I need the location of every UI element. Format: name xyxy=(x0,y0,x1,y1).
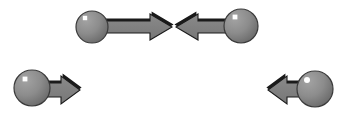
sphere-body xyxy=(76,11,108,43)
sphere-highlight xyxy=(23,77,28,82)
sphere xyxy=(297,71,333,107)
diagram-canvas xyxy=(0,0,348,122)
sphere xyxy=(76,11,108,43)
particle-force-scene xyxy=(0,0,348,122)
sphere xyxy=(224,9,258,43)
sphere-body xyxy=(14,70,50,106)
sphere-body xyxy=(297,71,333,107)
sphere-highlight xyxy=(83,16,87,20)
sphere-highlight xyxy=(304,77,310,83)
background-rect xyxy=(0,0,348,122)
sphere-body xyxy=(224,9,258,43)
sphere xyxy=(14,70,50,106)
sphere-highlight xyxy=(233,15,238,20)
